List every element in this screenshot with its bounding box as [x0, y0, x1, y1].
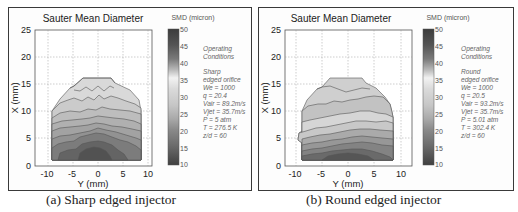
svg-text:q = 20.5: q = 20.5 — [461, 92, 485, 100]
chart-a-colorbar-ticks: 50 45 40 35 30 25 20 15 10 — [180, 26, 188, 168]
chart-a-operating-conditions: Operating Conditions Sharp edged orifice… — [202, 45, 246, 139]
chart-a: Sauter Mean Diameter — [9, 13, 246, 189]
svg-text:15: 15 — [271, 79, 281, 89]
chart-a-y-ticks: 25 20 15 10 5 0 — [21, 25, 31, 171]
svg-text:Conditions: Conditions — [203, 53, 235, 60]
svg-text:q = 20.4: q = 20.4 — [203, 92, 227, 100]
svg-text:5: 5 — [371, 169, 376, 179]
svg-text:20: 20 — [435, 128, 443, 135]
contour-figure: Sauter Mean Diameter — [0, 0, 518, 212]
svg-text:25: 25 — [271, 25, 281, 35]
svg-text:35: 35 — [180, 77, 188, 84]
svg-text:10: 10 — [21, 106, 31, 116]
svg-text:-10: -10 — [288, 169, 301, 179]
svg-text:10: 10 — [143, 169, 153, 179]
chart-a-title: Sauter Mean Diameter — [43, 13, 144, 24]
svg-text:50: 50 — [435, 26, 443, 33]
chart-a-colorbar-label: SMD (micron) — [171, 14, 214, 22]
svg-text:40: 40 — [435, 60, 443, 67]
svg-text:25: 25 — [435, 111, 443, 118]
svg-text:-10: -10 — [40, 169, 53, 179]
svg-text:45: 45 — [180, 43, 188, 50]
svg-text:-5: -5 — [317, 169, 325, 179]
svg-text:30: 30 — [435, 94, 443, 101]
svg-text:We = 1000: We = 1000 — [461, 84, 493, 91]
chart-b-operating-conditions: Operating Conditions Round edged orifice… — [460, 45, 504, 139]
svg-text:-5: -5 — [68, 169, 76, 179]
chart-a-y-label: X (mm) — [9, 82, 20, 113]
svg-text:T = 302.4 K: T = 302.4 K — [461, 124, 496, 131]
caption-b: (b) Round edged injector — [306, 192, 441, 208]
svg-text:Conditions: Conditions — [461, 53, 493, 60]
svg-text:45: 45 — [435, 43, 443, 50]
svg-text:5: 5 — [120, 169, 125, 179]
chart-a-colorbar — [168, 29, 179, 165]
chart-b-colorbar — [423, 29, 434, 165]
svg-text:Vair = 89.2m/s: Vair = 89.2m/s — [203, 100, 246, 107]
svg-text:35: 35 — [435, 77, 443, 84]
svg-text:z/d = 60: z/d = 60 — [202, 132, 227, 139]
svg-text:10: 10 — [180, 161, 188, 168]
chart-b-y-label: X (mm) — [259, 82, 270, 113]
svg-text:15: 15 — [435, 145, 443, 152]
svg-text:15: 15 — [180, 145, 188, 152]
svg-text:5: 5 — [26, 133, 31, 143]
svg-text:20: 20 — [271, 52, 281, 62]
chart-b-title: Sauter Mean Diameter — [291, 13, 392, 24]
chart-a-x-label: Y (mm) — [78, 178, 109, 189]
svg-text:10: 10 — [396, 169, 406, 179]
svg-text:10: 10 — [271, 106, 281, 116]
svg-text:30: 30 — [180, 94, 188, 101]
svg-text:Operating: Operating — [203, 45, 232, 53]
svg-text:Sharp: Sharp — [203, 68, 221, 76]
chart-b-colorbar-ticks: 50 45 40 35 30 25 20 15 10 — [435, 26, 443, 168]
svg-text:20: 20 — [180, 128, 188, 135]
svg-text:40: 40 — [180, 60, 188, 67]
chart-b-y-ticks: 25 20 15 10 5 0 — [271, 25, 281, 171]
chart-b-x-label: Y (mm) — [333, 178, 364, 189]
svg-text:25: 25 — [21, 25, 31, 35]
svg-text:Round: Round — [461, 68, 481, 75]
svg-text:5: 5 — [276, 133, 281, 143]
svg-text:25: 25 — [180, 111, 188, 118]
svg-text:z/d = 60: z/d = 60 — [460, 132, 485, 139]
svg-text:0: 0 — [26, 161, 31, 171]
chart-b: Sauter Mean Diameter 25 — [259, 13, 504, 189]
chart-b-colorbar-label: SMD (micron) — [426, 14, 469, 22]
svg-text:We = 1000: We = 1000 — [203, 84, 235, 91]
svg-text:0: 0 — [276, 161, 281, 171]
svg-text:20: 20 — [21, 52, 31, 62]
svg-text:50: 50 — [180, 26, 188, 33]
svg-text:P = 5 atm: P = 5 atm — [203, 116, 232, 123]
caption-a: (a) Sharp edged injector — [46, 192, 176, 208]
svg-text:10: 10 — [435, 161, 443, 168]
svg-text:15: 15 — [21, 79, 31, 89]
svg-text:Vjet = 35.7m/s: Vjet = 35.7m/s — [203, 108, 246, 116]
svg-text:Vjet = 35.7m/s: Vjet = 35.7m/s — [461, 108, 504, 116]
svg-text:T = 276.5 K: T = 276.5 K — [203, 124, 238, 131]
svg-text:Vair = 93.2m/s: Vair = 93.2m/s — [461, 100, 504, 107]
svg-text:P = 5.01 atm: P = 5.01 atm — [461, 116, 499, 123]
svg-text:Operating: Operating — [461, 45, 490, 53]
svg-text:edged orifice: edged orifice — [203, 76, 241, 84]
svg-text:edged orifice: edged orifice — [461, 76, 499, 84]
